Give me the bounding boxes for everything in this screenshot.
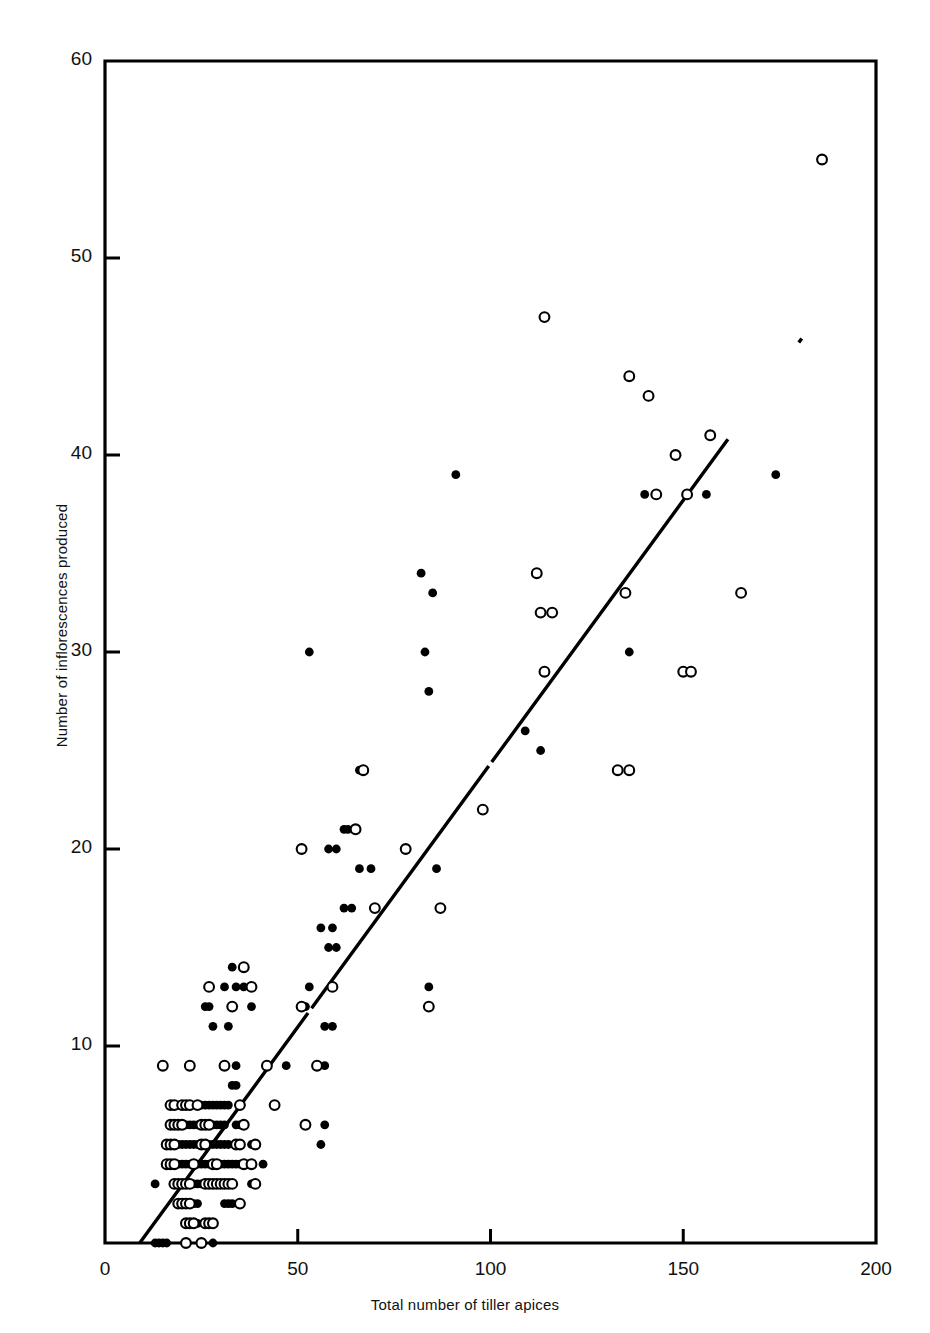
data-point-open xyxy=(301,1120,311,1130)
data-point-open xyxy=(181,1238,191,1248)
data-point-filled xyxy=(151,1180,160,1189)
data-point-filled xyxy=(282,1061,291,1070)
data-point-filled xyxy=(347,904,356,913)
data-point-filled xyxy=(220,1120,229,1129)
tick-marks xyxy=(105,258,683,1243)
data-point-filled xyxy=(232,1061,241,1070)
data-point-open xyxy=(235,1199,245,1209)
data-point-open xyxy=(686,667,696,677)
data-point-open xyxy=(250,1140,260,1150)
data-point-open xyxy=(158,1061,168,1071)
data-point-filled xyxy=(451,470,460,479)
data-point-open xyxy=(705,430,715,440)
data-point-filled xyxy=(332,845,341,854)
y-tick-label: 30 xyxy=(44,639,92,661)
data-point-filled xyxy=(205,1002,214,1011)
y-tick-label: 40 xyxy=(44,442,92,464)
data-point-open xyxy=(235,1100,245,1110)
data-point-open xyxy=(227,1179,237,1189)
data-point-filled xyxy=(209,1022,218,1031)
data-point-filled xyxy=(228,963,237,972)
data-point-filled xyxy=(428,589,437,598)
y-tick-label: 10 xyxy=(44,1033,92,1055)
y-tick-label: 20 xyxy=(44,836,92,858)
data-point-open xyxy=(540,667,550,677)
data-point-open xyxy=(177,1120,187,1130)
data-point-filled xyxy=(224,1101,233,1110)
data-point-open xyxy=(682,490,692,500)
data-point-open xyxy=(536,608,546,618)
data-point-filled xyxy=(417,569,426,578)
data-point-filled xyxy=(320,1022,329,1031)
x-tick-label: 200 xyxy=(836,1258,916,1280)
data-point-open xyxy=(644,391,654,401)
data-point-open xyxy=(204,1120,214,1130)
data-point-open xyxy=(624,371,634,381)
data-point-filled xyxy=(424,687,433,696)
data-point-filled xyxy=(209,1239,218,1248)
data-point-open xyxy=(532,568,542,578)
data-point-open xyxy=(328,982,338,992)
data-point-open xyxy=(297,844,307,854)
data-point-open xyxy=(169,1140,179,1150)
data-point-open xyxy=(185,1179,195,1189)
data-point-filled xyxy=(259,1160,268,1169)
data-point-filled xyxy=(320,1120,329,1129)
scatter-plot-figure: Total number of tiller apices Number of … xyxy=(0,0,930,1333)
data-point-filled xyxy=(521,726,530,735)
plot-canvas xyxy=(0,0,930,1333)
data-point-filled xyxy=(324,845,333,854)
data-point-open xyxy=(817,155,827,165)
data-point-open xyxy=(239,962,249,972)
data-point-open xyxy=(312,1061,322,1071)
data-point-open xyxy=(651,490,661,500)
data-point-filled xyxy=(220,983,229,992)
data-point-filled xyxy=(367,864,376,873)
data-point-open xyxy=(227,1002,237,1012)
data-point-open xyxy=(189,1159,199,1169)
data-point-open xyxy=(208,1218,218,1228)
y-tick-label: 60 xyxy=(44,48,92,70)
fit-line xyxy=(140,258,861,1243)
data-point-filled xyxy=(305,648,314,657)
data-point-open xyxy=(297,1002,307,1012)
data-point-open xyxy=(169,1159,179,1169)
data-point-filled xyxy=(771,470,780,479)
data-point-open xyxy=(185,1199,195,1209)
data-point-open xyxy=(247,982,257,992)
data-point-filled xyxy=(162,1239,171,1248)
data-point-open xyxy=(435,903,445,913)
data-point-open xyxy=(671,450,681,460)
data-point-open xyxy=(358,765,368,775)
y-tick-label: 50 xyxy=(44,245,92,267)
data-point-open xyxy=(189,1218,199,1228)
x-axis-title: Total number of tiller apices xyxy=(0,1296,930,1313)
data-point-open xyxy=(351,824,361,834)
data-point-filled xyxy=(316,1140,325,1149)
data-point-open xyxy=(212,1159,222,1169)
data-point-filled xyxy=(316,923,325,932)
data-point-open xyxy=(204,982,214,992)
data-point-open xyxy=(239,1120,249,1130)
data-point-open xyxy=(613,765,623,775)
data-point-open xyxy=(624,765,634,775)
data-point-filled xyxy=(424,983,433,992)
data-point-filled xyxy=(340,904,349,913)
data-point-open xyxy=(621,588,631,598)
data-point-filled xyxy=(702,490,711,499)
data-point-filled xyxy=(324,943,333,952)
data-point-filled xyxy=(536,746,545,755)
data-point-open xyxy=(478,805,488,815)
data-point-filled xyxy=(355,864,364,873)
data-point-open xyxy=(185,1061,195,1071)
data-point-filled xyxy=(232,983,241,992)
data-point-open xyxy=(547,608,557,618)
data-point-filled xyxy=(332,943,341,952)
data-point-open xyxy=(262,1061,272,1071)
data-points xyxy=(151,155,827,1248)
data-point-filled xyxy=(625,648,634,657)
data-point-open xyxy=(736,588,746,598)
data-point-open xyxy=(247,1159,257,1169)
data-point-filled xyxy=(247,1002,256,1011)
data-point-open xyxy=(401,844,411,854)
